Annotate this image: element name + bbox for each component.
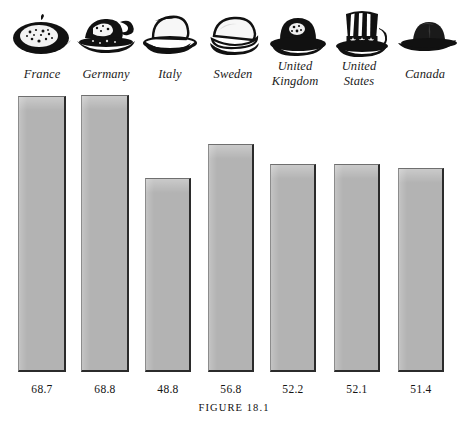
bar-germany <box>81 95 129 372</box>
value-label-sweden: 56.8 <box>201 383 261 396</box>
bar-highlight <box>271 165 314 370</box>
value-label-italy: 48.8 <box>138 383 198 396</box>
bar-highlight <box>335 165 378 370</box>
bar-highlight <box>399 169 442 370</box>
value-label-canada: 51.4 <box>391 383 451 396</box>
bar-united-states <box>334 164 380 372</box>
bar-france <box>18 96 66 372</box>
value-label-germany: 68.8 <box>75 383 135 396</box>
value-label-united-kingdom: 52.2 <box>263 383 323 396</box>
bar-italy <box>145 178 191 372</box>
bar-united-kingdom <box>270 164 316 372</box>
bar-canada <box>398 168 444 372</box>
figure-container: France Germany Italy Sweden United Kingd… <box>0 0 468 422</box>
bar-highlight <box>19 97 64 370</box>
bar-highlight <box>82 96 127 370</box>
figure-caption: FIGURE 18.1 <box>0 402 468 413</box>
bar-highlight <box>146 179 189 370</box>
bar-sweden <box>208 144 254 372</box>
bar-chart-plot-area <box>0 0 468 422</box>
bar-highlight <box>209 145 252 370</box>
value-label-france: 68.7 <box>12 383 72 396</box>
value-label-united-states: 52.1 <box>327 383 387 396</box>
